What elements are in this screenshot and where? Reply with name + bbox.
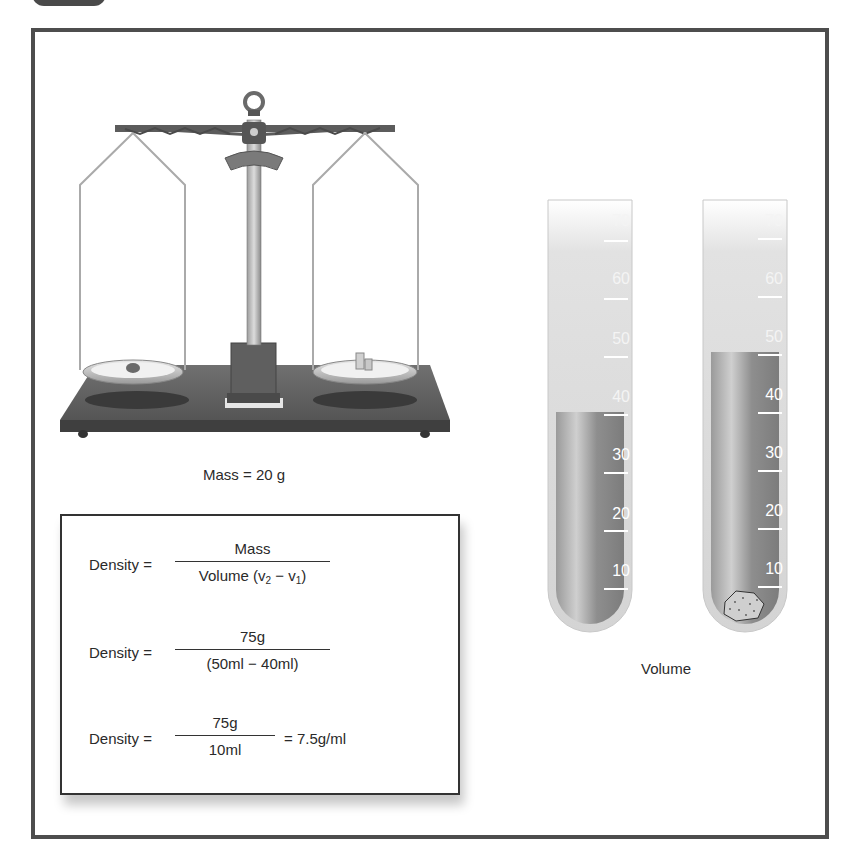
volume-caption: Volume: [641, 660, 691, 677]
formula-lhs: Density =: [89, 644, 152, 661]
scale-label: 70: [755, 212, 783, 230]
numerator: 75g: [175, 714, 275, 735]
formula-lhs: Density =: [89, 730, 152, 747]
weight-icon: [365, 359, 372, 370]
right-pan: [313, 133, 418, 384]
numerator: Mass: [175, 540, 330, 561]
formula-fraction: 75g 10ml: [175, 714, 275, 758]
scale-label: 20: [755, 502, 783, 520]
denominator: 10ml: [175, 736, 275, 758]
scale-label: 60: [755, 270, 783, 288]
denominator: (50ml − 40ml): [175, 650, 330, 672]
denominator: Volume (v2 − v1): [175, 562, 330, 586]
formula-row-2: Density = 75g (50ml − 40ml): [62, 628, 458, 688]
weight-icon: [356, 353, 364, 369]
formula-row-1: Density = Mass Volume (v2 − v1): [62, 540, 458, 600]
scale-label: 40: [755, 386, 783, 404]
scale-label: 50: [602, 330, 630, 348]
scale-label: 10: [602, 562, 630, 580]
formula-result: = 7.5g/ml: [284, 730, 346, 747]
scale-label: 40: [602, 388, 630, 406]
scale-label: 70: [602, 212, 630, 230]
scale-label: 20: [602, 505, 630, 523]
balance-scale-illustration: [55, 80, 465, 450]
formula-fraction: 75g (50ml − 40ml): [175, 628, 330, 672]
graduated-cylinders: [540, 190, 820, 660]
density-formula-box: Density = Mass Volume (v2 − v1) Density …: [60, 514, 460, 795]
formula-fraction: Mass Volume (v2 − v1): [175, 540, 330, 586]
left-pan: [80, 133, 185, 384]
formula-lhs: Density =: [89, 556, 152, 573]
scale-label: 10: [755, 560, 783, 578]
numerator: 75g: [175, 628, 330, 649]
corner-tab: [32, 0, 106, 6]
scale-label: 60: [602, 270, 630, 288]
scale-label: 50: [755, 328, 783, 346]
rock-sample-icon: [126, 363, 140, 373]
mass-caption: Mass = 20 g: [203, 466, 285, 483]
scale-label: 30: [602, 446, 630, 464]
formula-row-3: Density = 75g 10ml = 7.5g/ml: [62, 714, 458, 774]
scale-label: 30: [755, 444, 783, 462]
